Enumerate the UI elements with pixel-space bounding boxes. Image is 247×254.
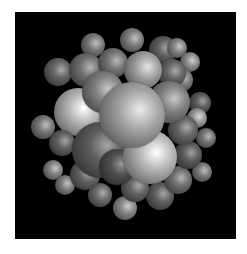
sphere: [174, 141, 202, 169]
sphere: [196, 128, 216, 148]
sphere: [99, 82, 165, 148]
render-viewport: [15, 12, 236, 239]
sphere: [44, 58, 72, 86]
sphere: [120, 28, 144, 52]
